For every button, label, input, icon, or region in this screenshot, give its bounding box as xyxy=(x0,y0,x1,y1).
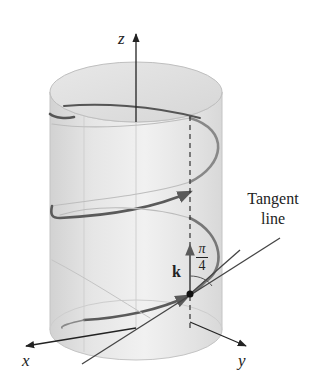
x-axis-label: x xyxy=(22,352,30,369)
k-vector-label: k xyxy=(172,264,181,280)
angle-numerator: π xyxy=(198,242,205,256)
tangent-label-line1: Tangent xyxy=(238,189,308,209)
tangent-line-label: Tangent line xyxy=(238,189,308,229)
point-of-tangency xyxy=(187,291,194,298)
angle-label-pi-over-4: π 4 xyxy=(196,242,208,273)
angle-denominator: 4 xyxy=(199,259,206,273)
y-axis-label: y xyxy=(238,352,246,369)
tangent-label-line2: line xyxy=(238,209,308,229)
z-axis-label: z xyxy=(118,30,125,47)
